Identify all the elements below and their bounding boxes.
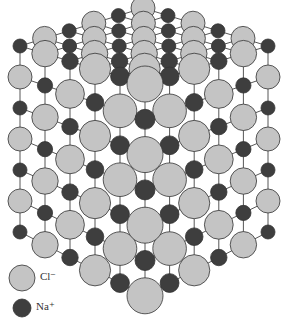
na-ion	[161, 24, 175, 38]
na-ion	[160, 274, 179, 293]
na-ion	[211, 53, 227, 69]
na-ion	[112, 39, 126, 53]
na-ion	[86, 94, 104, 112]
cl-ion	[204, 145, 233, 174]
cl-ion	[179, 188, 210, 219]
cl-ion	[127, 278, 163, 314]
cl-ion	[32, 168, 58, 194]
na-ion	[236, 205, 251, 220]
na-ion	[236, 78, 251, 93]
cl-ion	[56, 80, 85, 109]
cl-ion	[127, 66, 163, 102]
cl-ion	[56, 210, 85, 239]
na-ion	[13, 163, 27, 177]
na-ion	[261, 101, 275, 115]
na-ion	[62, 53, 78, 69]
cl-ion	[79, 188, 110, 219]
cl-ion	[179, 255, 210, 286]
lattice-atoms	[8, 0, 280, 314]
na-ion	[63, 39, 77, 53]
na-ion	[111, 67, 130, 86]
cl-ion	[103, 163, 137, 197]
cl-ion	[127, 137, 163, 173]
na-ion	[13, 225, 27, 239]
cl-ion	[79, 120, 110, 151]
na-ion	[135, 251, 155, 271]
na-ion	[161, 9, 175, 23]
cl-ion	[32, 232, 58, 258]
na-ion	[62, 249, 78, 265]
cl-ion	[79, 255, 110, 286]
na-ion	[62, 184, 78, 200]
na-ion	[111, 205, 130, 224]
cl-ion	[8, 189, 32, 213]
na-ion	[86, 161, 104, 179]
cl-ion	[204, 80, 233, 109]
na-ion	[37, 205, 52, 220]
cl-ion	[230, 104, 256, 130]
na-ion	[135, 180, 155, 200]
na-ion	[37, 78, 52, 93]
cl-ion	[127, 207, 163, 243]
legend-cl-label: Cl⁻	[40, 270, 56, 283]
na-ion	[211, 24, 225, 38]
cl-ion	[32, 104, 58, 130]
na-ion	[162, 39, 176, 53]
na-ion	[62, 118, 78, 134]
cl-ion	[230, 168, 256, 194]
cl-ion	[153, 163, 187, 197]
cl-ion	[8, 127, 32, 151]
na-ion	[13, 39, 27, 53]
na-ion	[135, 109, 155, 129]
na-ion	[211, 118, 227, 134]
legend-cl-swatch	[9, 265, 35, 291]
na-ion	[211, 184, 227, 200]
na-ion	[62, 24, 76, 38]
legend-na-swatch	[13, 299, 31, 317]
cl-ion	[32, 40, 58, 66]
na-ion	[160, 205, 179, 224]
na-ion	[111, 9, 125, 23]
cl-ion	[256, 127, 280, 151]
cl-ion	[56, 145, 85, 174]
na-ion	[261, 39, 275, 53]
na-ion	[261, 225, 275, 239]
na-ion	[185, 161, 203, 179]
cl-ion	[8, 65, 32, 89]
na-ion	[13, 101, 27, 115]
cl-ion	[179, 53, 210, 84]
na-ion	[86, 228, 104, 246]
cl-ion	[153, 94, 187, 128]
na-ion	[112, 24, 126, 38]
na-ion	[185, 94, 203, 112]
na-ion	[185, 228, 203, 246]
na-ion	[236, 142, 251, 157]
cl-ion	[79, 53, 110, 84]
cl-ion	[103, 94, 137, 128]
na-ion	[261, 163, 275, 177]
cl-ion	[204, 210, 233, 239]
cl-ion	[230, 40, 256, 66]
cl-ion	[230, 232, 256, 258]
legend-na-label: Na⁺	[36, 300, 55, 313]
na-ion	[211, 39, 225, 53]
na-ion	[37, 142, 52, 157]
na-ion	[111, 274, 130, 293]
na-ion	[111, 136, 130, 155]
legend	[9, 265, 35, 317]
cl-ion	[179, 120, 210, 151]
na-ion	[211, 249, 227, 265]
cl-ion	[256, 65, 280, 89]
cl-ion	[256, 189, 280, 213]
